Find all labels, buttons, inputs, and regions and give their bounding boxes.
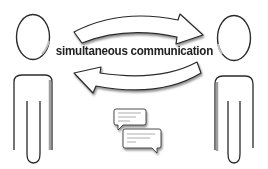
person-right: [215, 16, 253, 164]
diagram-title: simultaneous communication: [19, 43, 249, 58]
chat-bubble-2: [123, 129, 161, 153]
person-left-body: [14, 75, 52, 150]
chat-bubble-1: [114, 109, 146, 130]
person-left: [14, 15, 52, 164]
arrow-right-icon: [74, 14, 203, 44]
diagram-graphics: [0, 0, 268, 169]
person-right-body: [215, 76, 253, 150]
person-left-legs: [27, 101, 40, 163]
arrow-left-icon: [74, 62, 201, 93]
diagram-canvas: simultaneous communication: [0, 0, 268, 169]
person-right-legs: [228, 101, 240, 163]
